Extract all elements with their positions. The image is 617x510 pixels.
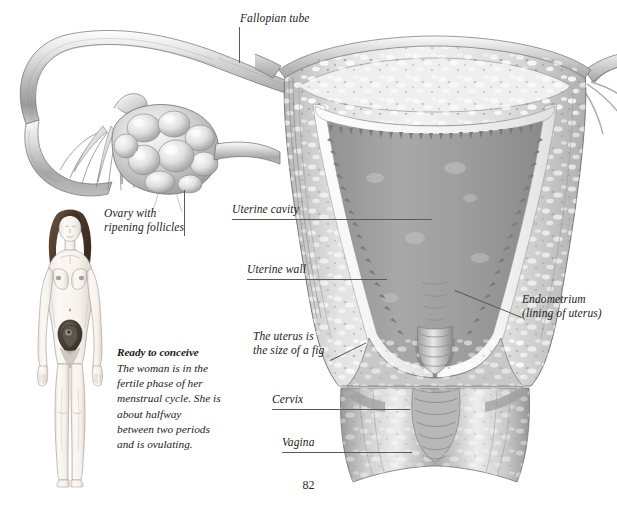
label-endometrium-line1: Endometrium <box>522 293 586 305</box>
label-endometrium-line2: (lining of uterus) <box>522 307 602 319</box>
label-ovary-line1: Ovary with <box>104 207 156 219</box>
leader-uterine-wall <box>247 279 387 280</box>
leader-ovary <box>184 190 185 236</box>
label-fig-size: The uterus is the size of a fig <box>253 330 345 357</box>
label-cervix: Cervix <box>272 393 303 407</box>
label-ovary: Ovary with ripening follicles <box>104 207 190 234</box>
label-ovary-line2: ripening follicles <box>104 221 184 233</box>
leader-vagina <box>282 452 412 453</box>
illustration-page: Fallopian tube Ovary with ripening folli… <box>0 0 617 510</box>
label-endometrium: Endometrium (lining of uterus) <box>522 293 614 320</box>
label-vagina: Vagina <box>282 436 315 450</box>
label-uterine-cavity: Uterine cavity <box>232 203 299 217</box>
caption-title: Ready to conceive <box>117 345 221 360</box>
leader-uterine-cavity <box>232 219 432 220</box>
leader-cervix <box>272 409 410 410</box>
caption-block: Ready to conceive The woman is in the fe… <box>117 345 221 453</box>
standing-female-figure-illustration <box>20 198 120 488</box>
label-fallopian-tube: Fallopian tube <box>240 12 309 26</box>
leader-fallopian-tube <box>239 27 240 63</box>
page-number: 82 <box>0 478 617 493</box>
uterus-cross-section-illustration <box>255 8 617 500</box>
label-uterine-wall: Uterine wall <box>247 263 306 277</box>
label-fig-size-line2: the size of a fig <box>253 344 324 356</box>
label-fig-size-line1: The uterus is <box>253 330 314 342</box>
caption-body: The woman is in the fertile phase of her… <box>117 362 221 450</box>
